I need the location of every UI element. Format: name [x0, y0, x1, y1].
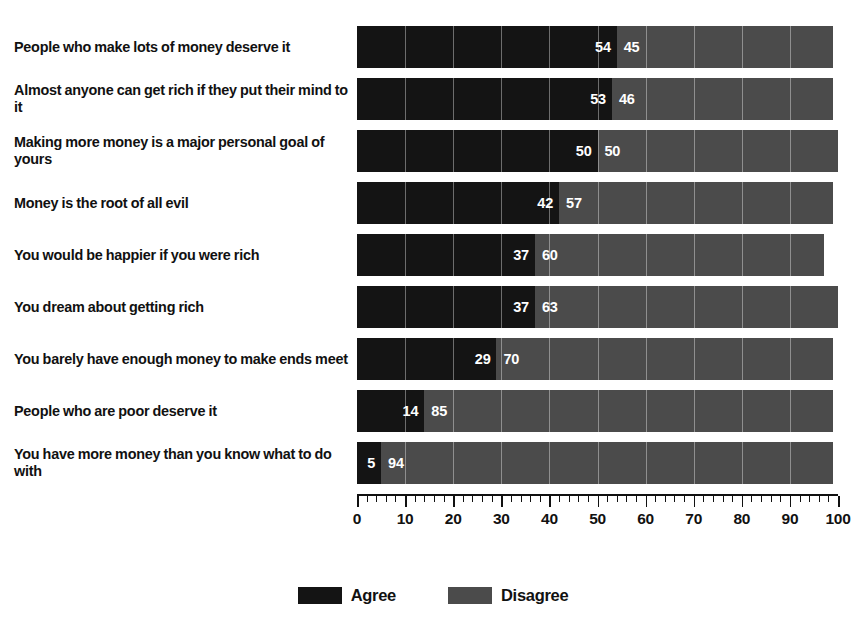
axis-tick-label: 90	[782, 510, 799, 528]
bar-segment-disagree	[535, 234, 824, 276]
axis-tick-minor	[809, 496, 810, 502]
legend-swatch-icon	[448, 587, 492, 604]
axis-tick-minor	[751, 496, 752, 502]
axis-tick-minor	[569, 496, 570, 502]
axis-tick-minor	[386, 496, 387, 502]
axis-tick-minor	[559, 496, 560, 502]
bar-segment-agree	[357, 78, 612, 120]
axis-tick-major	[357, 496, 359, 507]
axis-tick-major	[742, 496, 744, 507]
chart-row: You dream about getting rich3763	[0, 286, 866, 328]
category-label: People who make lots of money deserve it	[14, 39, 350, 56]
axis-tick-minor	[482, 496, 483, 502]
axis-tick-major	[501, 496, 503, 507]
bar-segment-disagree	[535, 286, 838, 328]
value-label-disagree: 57	[566, 195, 582, 211]
chart-row: Making more money is a major personal go…	[0, 130, 866, 172]
axis-tick-major	[838, 496, 840, 507]
category-label: Almost anyone can get rich if they put t…	[14, 82, 350, 116]
chart-row: Almost anyone can get rich if they put t…	[0, 78, 866, 120]
axis-tick-label: 80	[733, 510, 750, 528]
bar-segment-disagree	[424, 390, 833, 432]
axis-tick-minor	[713, 496, 714, 502]
axis-tick-minor	[626, 496, 627, 502]
axis-tick-minor	[617, 496, 618, 502]
bar-track: 594	[357, 442, 838, 484]
bar-track: 1485	[357, 390, 838, 432]
axis-tick-minor	[588, 496, 589, 502]
axis-tick-minor	[780, 496, 781, 502]
legend-label: Agree	[351, 586, 396, 605]
bar-track: 3760	[357, 234, 838, 276]
bar-segment-disagree	[381, 442, 833, 484]
legend-item[interactable]: Agree	[298, 586, 396, 605]
axis-tick-minor	[472, 496, 473, 502]
axis-tick-major	[549, 496, 551, 507]
axis-tick-minor	[424, 496, 425, 502]
axis-tick-minor	[684, 496, 685, 502]
value-label-disagree: 85	[431, 403, 447, 419]
axis-tick-minor	[703, 496, 704, 502]
axis-tick-minor	[492, 496, 493, 502]
value-label-agree: 37	[513, 299, 529, 315]
category-label: You have more money than you know what t…	[14, 446, 350, 480]
bar-track: 3763	[357, 286, 838, 328]
axis-tick-label: 30	[493, 510, 510, 528]
value-label-disagree: 45	[624, 39, 640, 55]
chart-row: People who make lots of money deserve it…	[0, 26, 866, 68]
bar-track: 5346	[357, 78, 838, 120]
legend-label: Disagree	[501, 586, 568, 605]
category-label: You dream about getting rich	[14, 299, 350, 316]
axis-tick-minor	[444, 496, 445, 502]
axis-tick-minor	[674, 496, 675, 502]
axis-tick-major	[598, 496, 600, 507]
bar-segment-disagree	[617, 26, 833, 68]
bar-segment-agree	[357, 182, 559, 224]
axis-tick-label: 60	[637, 510, 654, 528]
value-label-agree: 53	[590, 91, 606, 107]
chart-row: You would be happier if you were rich376…	[0, 234, 866, 276]
axis-tick-minor	[636, 496, 637, 502]
axis-tick-minor	[732, 496, 733, 502]
bar-track: 5050	[357, 130, 838, 172]
axis-tick-minor	[511, 496, 512, 502]
chart-row: Money is the root of all evil4257	[0, 182, 866, 224]
axis-tick-label: 100	[826, 510, 851, 528]
value-label-agree: 42	[537, 195, 553, 211]
value-label-disagree: 46	[619, 91, 635, 107]
value-label-agree: 5	[367, 455, 375, 471]
chart-row: People who are poor deserve it1485	[0, 390, 866, 432]
bar-segment-agree	[357, 130, 598, 172]
axis-tick-minor	[367, 496, 368, 502]
axis-tick-major	[790, 496, 792, 507]
value-label-agree: 50	[576, 143, 592, 159]
axis-tick-major	[405, 496, 407, 507]
bar-segment-agree	[357, 286, 535, 328]
axis-tick-minor	[607, 496, 608, 502]
x-axis: 0102030405060708090100	[357, 494, 838, 540]
axis-tick-label: 0	[353, 510, 361, 528]
axis-tick-minor	[415, 496, 416, 502]
value-label-disagree: 60	[542, 247, 558, 263]
bar-segment-agree	[357, 234, 535, 276]
bar-track: 4257	[357, 182, 838, 224]
value-label-disagree: 63	[542, 299, 558, 315]
axis-tick-minor	[521, 496, 522, 502]
axis-tick-major	[694, 496, 696, 507]
axis-tick-label: 10	[397, 510, 414, 528]
value-label-disagree: 94	[388, 455, 404, 471]
bar-track: 2970	[357, 338, 838, 380]
axis-tick-minor	[771, 496, 772, 502]
value-label-agree: 14	[403, 403, 419, 419]
value-label-agree: 54	[595, 39, 611, 55]
axis-tick-minor	[376, 496, 377, 502]
category-label: People who are poor deserve it	[14, 403, 350, 420]
axis-tick-minor	[434, 496, 435, 502]
stacked-bar-chart: People who make lots of money deserve it…	[0, 0, 866, 633]
bar-segment-disagree	[496, 338, 833, 380]
legend-item[interactable]: Disagree	[448, 586, 568, 605]
value-label-agree: 37	[513, 247, 529, 263]
axis-tick-major	[646, 496, 648, 507]
axis-tick-minor	[761, 496, 762, 502]
category-label: Making more money is a major personal go…	[14, 134, 350, 168]
